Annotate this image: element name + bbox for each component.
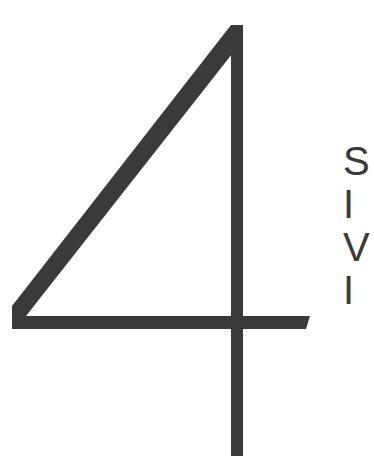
side-heading-line-4: I: [343, 269, 374, 312]
side-heading-line-3: V: [343, 226, 374, 269]
side-heading-line-2: I: [343, 183, 374, 226]
side-heading-line-1: S: [343, 140, 374, 183]
side-heading: S I V I: [343, 140, 374, 312]
